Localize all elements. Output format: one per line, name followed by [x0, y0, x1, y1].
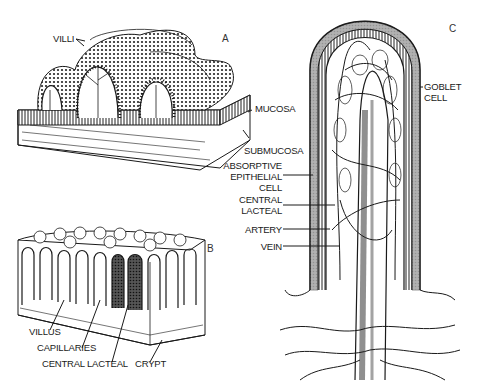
- label-line: CENTRAL: [200, 194, 282, 205]
- label-line: EPITHELIAL: [200, 171, 282, 182]
- label-submucosa: SUBMUCOSA: [244, 145, 303, 156]
- label-absorptive-epithelial-cell: ABSORPTIVE EPITHELIAL CELL: [200, 160, 282, 193]
- label-vein: VEIN: [200, 241, 282, 252]
- label-crypt: CRYPT: [135, 358, 166, 369]
- panel-c-letter: C: [449, 23, 456, 34]
- label-central-lacteal-b: CENTRAL LACTEAL: [42, 358, 128, 369]
- label-capillaries: CAPILLARIES: [37, 342, 96, 353]
- label-line: GOBLET: [424, 81, 461, 92]
- label-villi: VILLI: [53, 33, 74, 44]
- label-line: ABSORPTIVE: [200, 160, 282, 171]
- label-line: CELL: [200, 182, 282, 193]
- label-central-lacteal: CENTRAL LACTEAL: [200, 194, 282, 216]
- label-line: LACTEAL: [200, 205, 282, 216]
- label-mucosa: MUCOSA: [255, 103, 296, 114]
- panel-a-drawing: [18, 29, 252, 170]
- label-artery: ARTERY: [200, 224, 282, 235]
- panel-c-drawing: [280, 21, 460, 380]
- panel-a-letter: A: [222, 33, 229, 44]
- label-goblet-cell: GOBLET CELL: [424, 81, 461, 103]
- label-villus: VILLUS: [29, 326, 61, 337]
- label-line: CELL: [424, 92, 461, 103]
